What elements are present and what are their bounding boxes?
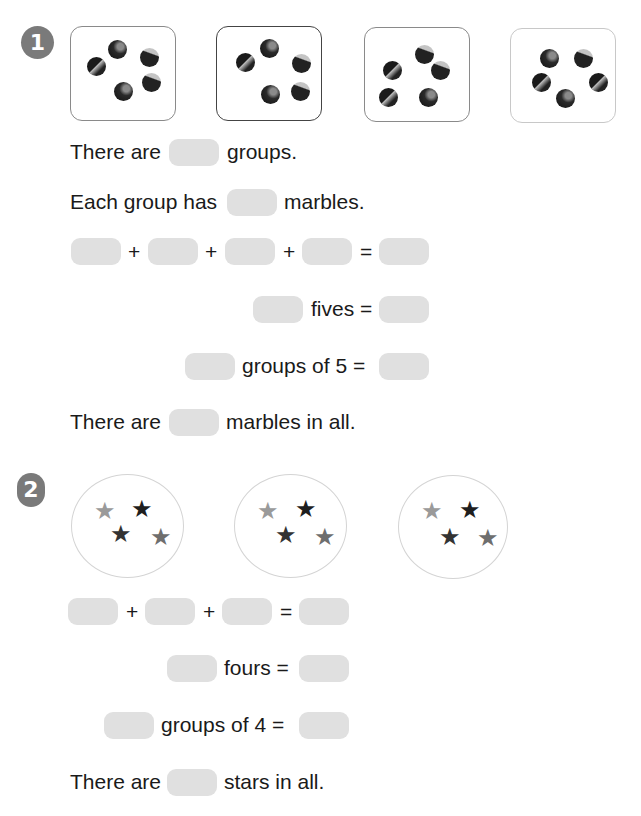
answer-box-groups-of-5-count[interactable] (185, 353, 235, 380)
star-icon: ★ (439, 525, 461, 549)
marble (291, 82, 310, 101)
plus-sign: + (205, 238, 217, 265)
marble (292, 54, 311, 73)
marble (108, 40, 127, 59)
marble (415, 45, 434, 64)
answer-box-marbles-per-group[interactable] (227, 189, 277, 216)
answer-box-addend-2[interactable] (145, 598, 195, 625)
star-icon: ★ (421, 499, 443, 523)
marble (142, 73, 161, 92)
equals-sign: = (280, 598, 292, 625)
star-group: ★ ★ ★ ★ (234, 474, 347, 578)
plus-sign: + (203, 598, 215, 625)
answer-box-sum[interactable] (299, 598, 349, 625)
problem-number-badge: 1 (21, 26, 54, 59)
marble (260, 39, 279, 58)
star-icon: ★ (459, 498, 481, 522)
text-groups: groups. (227, 136, 297, 168)
answer-box-group-count[interactable] (169, 139, 219, 166)
plus-sign: + (128, 238, 140, 265)
answer-box-groups-of-4-total[interactable] (299, 712, 349, 739)
marble-group (216, 26, 322, 121)
answer-box-addend-1[interactable] (71, 238, 121, 265)
marble-group (510, 28, 616, 123)
star-group: ★ ★ ★ ★ (71, 474, 184, 578)
star-icon: ★ (477, 526, 499, 550)
star-group: ★ ★ ★ ★ (398, 475, 508, 579)
marble (556, 89, 575, 108)
answer-box-fives-total[interactable] (379, 296, 429, 323)
answer-box-addend-1[interactable] (68, 598, 118, 625)
star-icon: ★ (314, 525, 336, 549)
marble (431, 61, 450, 80)
marble (383, 61, 402, 80)
text-stars-in-all: stars in all. (224, 766, 324, 798)
marble-group (364, 27, 470, 122)
equals-sign: = (360, 238, 372, 265)
star-icon: ★ (131, 497, 153, 521)
star-icon: ★ (257, 499, 279, 523)
marble (540, 49, 559, 68)
text-marbles: marbles. (284, 186, 365, 218)
marble (379, 88, 398, 107)
marble (532, 73, 551, 92)
answer-box-addend-4[interactable] (302, 238, 352, 265)
marble (589, 73, 608, 92)
answer-box-addend-3[interactable] (222, 598, 272, 625)
text-there-are: There are (70, 136, 161, 168)
answer-box-fours-count[interactable] (167, 655, 217, 682)
marble (114, 82, 133, 101)
text-groups-of-4-equals: groups of 4 = (161, 709, 284, 741)
marble (574, 49, 593, 68)
star-icon: ★ (110, 522, 132, 546)
star-icon: ★ (275, 523, 297, 547)
answer-box-addend-2[interactable] (148, 238, 198, 265)
marble (419, 88, 438, 107)
marble (140, 48, 159, 67)
answer-box-sum[interactable] (379, 238, 429, 265)
plus-sign: + (283, 238, 295, 265)
plus-sign: + (126, 598, 138, 625)
marble-group (70, 26, 176, 121)
answer-box-addend-3[interactable] (225, 238, 275, 265)
text-there-are: There are (70, 766, 161, 798)
marble (236, 53, 255, 72)
marble (261, 85, 280, 104)
marble (87, 57, 106, 76)
text-each-group-has: Each group has (70, 186, 217, 218)
text-fives-equals: fives = (311, 293, 372, 325)
answer-box-fours-total[interactable] (299, 655, 349, 682)
answer-box-total-marbles[interactable] (169, 409, 219, 436)
answer-box-groups-of-5-total[interactable] (379, 353, 429, 380)
star-icon: ★ (295, 497, 317, 521)
text-fours-equals: fours = (224, 652, 289, 684)
answer-box-groups-of-4-count[interactable] (104, 712, 154, 739)
answer-box-fives-count[interactable] (253, 296, 303, 323)
star-icon: ★ (150, 525, 172, 549)
problem-number-badge: 2 (17, 473, 45, 507)
text-there-are: There are (70, 406, 161, 438)
text-marbles-in-all: marbles in all. (226, 406, 356, 438)
answer-box-total-stars[interactable] (167, 769, 217, 796)
text-groups-of-5-equals: groups of 5 = (242, 350, 365, 382)
